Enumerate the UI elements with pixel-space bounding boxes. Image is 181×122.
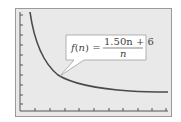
formula-denominator: n xyxy=(120,48,126,59)
formula-lhs: f(n) = xyxy=(70,42,101,53)
formula-callout: f(n) = 1.50n + 6 n xyxy=(60,35,154,76)
formula-numerator: 1.50n + 6 xyxy=(104,36,154,47)
chart-plot: f(n) = 1.50n + 6 n xyxy=(0,0,181,122)
